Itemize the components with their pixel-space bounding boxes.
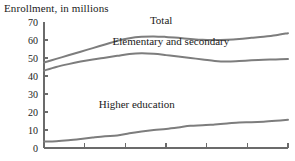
y-tick-label: 0 [33,143,38,154]
enrollment-line-chart: Enrollment, in millions 010203040506070 … [0,0,295,161]
series-annotation-label: Total [150,14,172,26]
y-tick-label: 70 [28,17,38,28]
y-tick-label: 50 [28,53,38,64]
series-annotation-label: Elementary and secondary [113,35,230,47]
series-annotations: TotalElementary and secondaryHigher educ… [99,14,230,111]
series-line-elementary-and-secondary [44,53,288,70]
series-line-higher-education [44,120,288,142]
y-tick-label: 60 [28,35,38,46]
y-tick-label: 40 [28,71,38,82]
y-tick-label: 20 [28,107,38,118]
y-tick-label: 30 [28,89,38,100]
chart-plot-area: 010203040506070 TotalElementary and seco… [0,0,295,161]
y-axis-tick-marks [44,40,48,148]
x-axis-tick-marks [85,143,288,148]
y-tick-label: 10 [28,125,38,136]
y-axis-tick-labels: 010203040506070 [28,17,38,154]
series-annotation-label: Higher education [99,98,176,110]
